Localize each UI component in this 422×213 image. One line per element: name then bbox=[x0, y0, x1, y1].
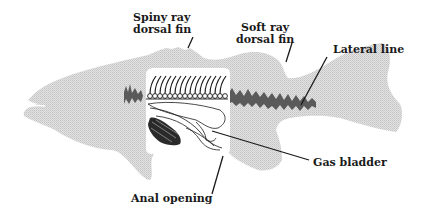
internal-cutaway bbox=[146, 68, 230, 154]
label-gas-bladder: Gas bladder bbox=[313, 157, 387, 169]
spiny-ray-leader bbox=[188, 37, 193, 48]
label-soft-ray-dorsal-fin: Soft ray dorsal fin bbox=[236, 22, 294, 46]
fish-anatomy-diagram: Spiny ray dorsal fin Soft ray dorsal fin… bbox=[0, 0, 422, 213]
label-lateral-line: Lateral line bbox=[333, 44, 404, 56]
label-anal-opening: Anal opening bbox=[131, 193, 213, 205]
label-line: dorsal fin bbox=[133, 24, 191, 36]
label-line: Lateral line bbox=[333, 44, 404, 56]
label-line: Gas bladder bbox=[313, 157, 387, 169]
label-line: dorsal fin bbox=[236, 34, 294, 46]
label-spiny-ray-dorsal-fin: Spiny ray dorsal fin bbox=[133, 12, 191, 36]
label-line: Anal opening bbox=[131, 193, 213, 205]
anal-opening-leader bbox=[212, 156, 223, 194]
